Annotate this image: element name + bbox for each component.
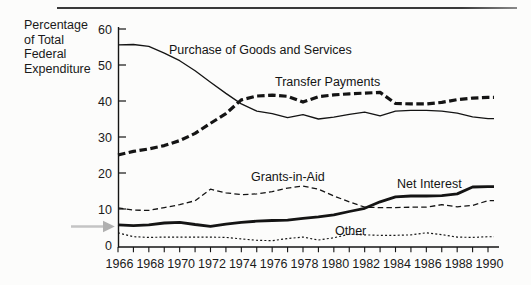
y-axis-tick-label: 0 [105,239,112,253]
series-label-purchase-of-goods-and-services: Purchase of Goods and Services [169,43,352,57]
pointer-arrow-head [103,221,115,233]
y-axis-tick-label: 60 [98,23,112,37]
series-label-grants-in-aid: Grants-in-Aid [251,170,325,184]
x-axis-tick-label: 1968 [136,257,164,271]
x-axis-tick-label: 1970 [167,257,195,271]
x-axis-tick-label: 1988 [445,257,473,271]
series-line-transfer-payments [118,92,494,155]
x-axis-tick-label: 1966 [106,257,134,271]
series-line-other [118,233,494,241]
y-axis-tick-label: 30 [98,131,112,145]
series-label-transfer-payments: Transfer Payments [275,75,380,89]
x-axis-tick-label: 1984 [383,257,411,271]
x-axis-tick-label: 1982 [352,257,380,271]
x-axis-tick-label: 1972 [198,257,226,271]
x-axis-tick-label: 1980 [321,257,349,271]
x-axis-tick-label: 1990 [476,257,504,271]
x-axis-tick-label: 1974 [229,257,257,271]
series-label-net-interest: Net Interest [397,177,462,191]
y-axis-tick-label: 10 [98,203,112,217]
chart-figure: Percentage of Total Federal Expenditure … [0,0,531,285]
x-axis-tick-label: 1986 [414,257,442,271]
series-line-net-interest [118,187,494,227]
x-axis-tick-label: 1978 [291,257,319,271]
y-axis-tick-label: 40 [98,95,112,109]
x-axis-tick-label: 1976 [260,257,288,271]
series-label-other: Other [335,224,366,238]
y-axis-tick-label: 20 [98,167,112,181]
y-axis-tick-label: 50 [98,59,112,73]
